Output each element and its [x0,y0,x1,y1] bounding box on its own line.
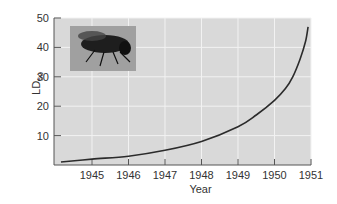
y-tick-label: 40 [37,41,49,53]
chart: 10203040501945194619471948194919501951Ye… [0,0,337,204]
x-tick-label: 1950 [262,169,286,181]
x-tick-label: 1946 [116,169,140,181]
y-tick-label: 10 [37,130,49,142]
x-tick-label: 1951 [299,169,323,181]
y-tick-label: 20 [37,100,49,112]
x-tick-label: 1945 [80,169,104,181]
x-tick-label: 1947 [153,169,177,181]
x-axis-title: Year [189,183,212,195]
x-tick-label: 1949 [226,169,250,181]
housefly-photo [70,26,136,71]
y-tick-label: 50 [37,12,49,24]
x-tick-label: 1948 [189,169,213,181]
y-axis-title: LD50 [30,71,45,95]
